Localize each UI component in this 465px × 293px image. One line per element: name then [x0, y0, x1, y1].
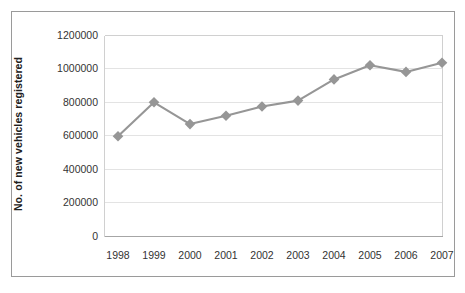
x-axis-tick-labels: 1998 1999 2000 2001 2002 2003 2004 2005 … [0, 0, 465, 293]
x-tick-2007: 2007 [420, 249, 464, 261]
figure-container: No. of new vehicles registered 1200000 1… [0, 0, 465, 293]
